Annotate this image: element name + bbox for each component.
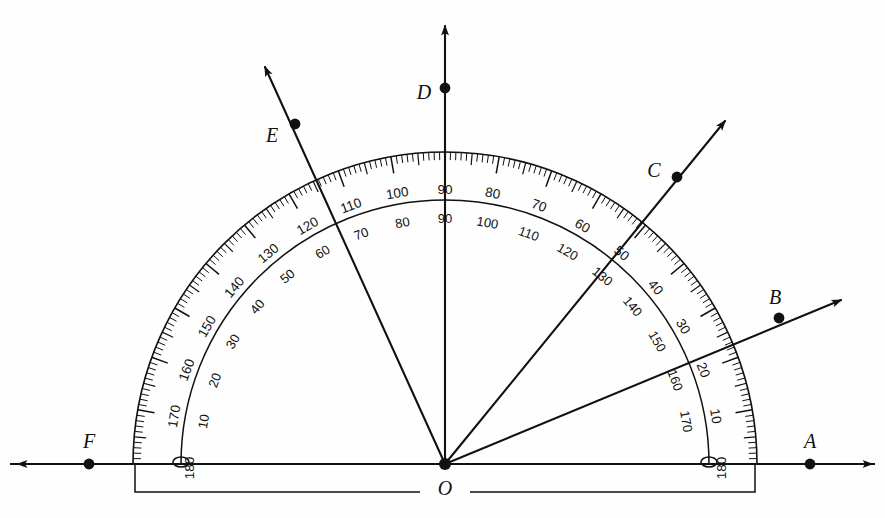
scale-number: 100 [385, 184, 410, 203]
scale-number: 110 [338, 195, 363, 216]
point-dot-B [774, 313, 785, 324]
scale-number: 10 [195, 413, 212, 430]
scale-number: 150 [645, 328, 669, 354]
ray-OB [445, 300, 841, 464]
point-label-B: B [769, 286, 781, 308]
scale-number: 30 [223, 331, 243, 351]
scale-number: 60 [572, 216, 593, 237]
point-label-D: D [416, 81, 432, 103]
scale-number: 100 [476, 213, 500, 232]
scale-number: 40 [247, 296, 268, 317]
scale-number: 50 [277, 266, 298, 287]
point-dot-E [290, 119, 301, 130]
protractor-base-bracket-left [135, 464, 420, 492]
scale-number: 70 [529, 196, 548, 215]
scale-number: 20 [205, 371, 224, 390]
scale-number: 20 [694, 360, 713, 379]
scale-number: 80 [484, 185, 501, 202]
protractor-figure: 1020304050607080901001101201301401501601… [0, 0, 885, 518]
point-label-F: F [82, 430, 96, 452]
point-label-E: E [265, 124, 278, 146]
point-dot-C [672, 172, 683, 183]
point-label-A: A [802, 430, 817, 452]
point-dot-D [440, 83, 451, 94]
point-label-C: C [647, 159, 661, 181]
scale-number: 80 [394, 214, 411, 231]
scale-number: 60 [312, 242, 332, 262]
scale-number: 140 [221, 274, 247, 301]
scale-number: 120 [554, 240, 580, 264]
center-dot-O [439, 458, 451, 470]
scale-number: 130 [255, 240, 282, 266]
scale-number: 140 [620, 293, 645, 319]
scale-number: 130 [589, 264, 615, 289]
scale-number: 110 [517, 223, 542, 244]
protractor-svg: 1020304050607080901001101201301401501601… [0, 0, 885, 518]
point-dot-A [805, 459, 816, 470]
scale-number: 30 [673, 316, 694, 337]
protractor-base-bracket-right [470, 464, 755, 492]
scale-number: 150 [195, 313, 219, 340]
center-label-O: O [438, 477, 452, 499]
scale-number: 120 [294, 214, 321, 238]
scale-number: 170 [165, 404, 184, 429]
scale-number: 170 [677, 409, 696, 433]
point-dot-F [84, 459, 95, 470]
scale-number: 70 [352, 224, 371, 243]
scale-number: 10 [707, 408, 724, 425]
